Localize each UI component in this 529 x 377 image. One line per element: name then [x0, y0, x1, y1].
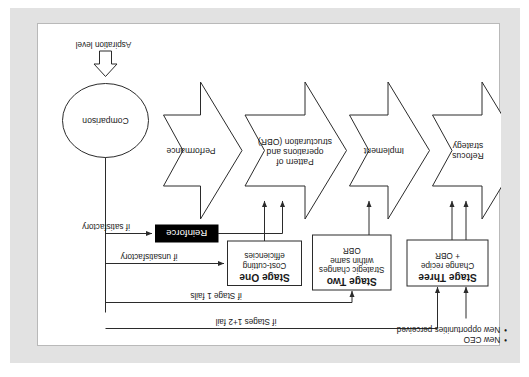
edge-reinforce-to-pattern [218, 201, 283, 234]
stage-three-text: Stage Three Change recipe + OBR [407, 251, 488, 283]
stage-two-title: Stage Two [313, 275, 392, 287]
stage-three-subtitle: Change recipe + OBR [407, 251, 488, 270]
stage-two-text: Stage Two Strategic changes within same … [313, 245, 392, 287]
stage-one-text: Stage One Cost-cutting efficiencies [228, 251, 302, 283]
edge-label-if-unsatisfactory: if unsatisfactory [104, 253, 194, 262]
trigger-label-new-opportunities: New opportunities perceived [397, 325, 500, 334]
trigger-bullet-0: • [504, 335, 507, 344]
comparison-ellipse [63, 84, 149, 158]
aspiration-block-arrow [94, 51, 117, 77]
trigger-bullet-1: • [504, 325, 507, 334]
edge-label-if-stage-1-fails: if Stage 1 fails [171, 292, 261, 301]
chevron-performance-shape [164, 82, 243, 219]
chevron-refocus-strategy [433, 82, 502, 219]
stage-two-subtitle: Strategic changes within same OBR [313, 245, 392, 274]
stage-one-subtitle: Cost-cutting efficiencies [228, 251, 302, 270]
triggers-list: • New CEO • New opportunities perceived [367, 325, 507, 344]
diagram-canvas: Aspiration level Comparison Reinforce Pe… [38, 24, 501, 347]
diagram-vector-layer [38, 24, 501, 347]
chevron-pattern-of-operations [245, 82, 347, 219]
chevron-implement [350, 82, 430, 219]
edge-label-if-satisfactory: if satisfactory [66, 223, 146, 232]
stage-three-title: Stage Three [407, 271, 488, 283]
stage-one-title: Stage One [228, 271, 302, 283]
aspiration-level-label: Aspiration level [61, 40, 146, 49]
reinforce-label: Reinforce [156, 228, 219, 239]
screenshot-root: Aspiration level Comparison Reinforce Pe… [0, 0, 529, 377]
edge-label-if-stages-1-2-fail: if Stages 1+2 fail [191, 318, 301, 327]
trigger-label-new-ceo: New CEO [464, 335, 500, 344]
diagram-page: Aspiration level Comparison Reinforce Pe… [37, 23, 500, 346]
